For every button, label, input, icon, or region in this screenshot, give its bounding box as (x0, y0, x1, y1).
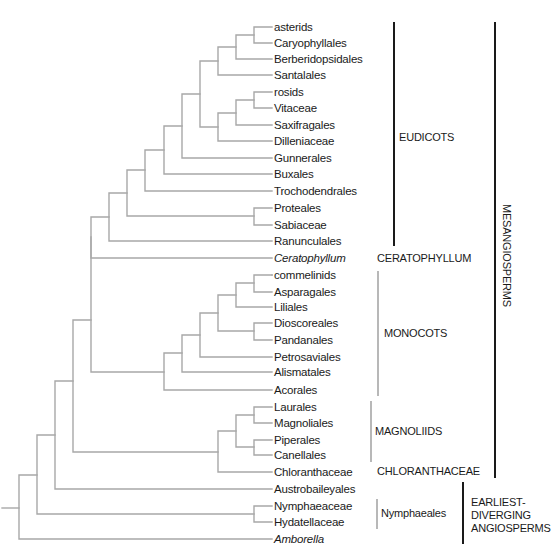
leaf-amborella: Amborella (274, 532, 324, 546)
leaf-ceratophyllum: Ceratophyllum (274, 251, 346, 265)
leaf-petrosaviales: Petrosaviales (274, 350, 340, 364)
leaf-asparagales: Asparagales (274, 285, 336, 299)
leaf-alismatales: Alismatales (274, 365, 331, 379)
nymphaeales-label: Nymphaeales (381, 507, 446, 520)
earliest-diverging-bracket (462, 482, 464, 544)
magnoliids-label: MAGNOLIIDS (375, 425, 442, 438)
magnoliids-bracket (370, 401, 372, 462)
leaf-laurales: Laurales (274, 400, 317, 414)
leaf-gunnerales: Gunnerales (274, 151, 331, 165)
earliest-diverging-label-3: ANGIOSPERMS (471, 522, 551, 535)
leaf-vitaceae: Vitaceae (274, 101, 317, 115)
leaf-magnoliales: Magnoliales (274, 416, 333, 430)
leaf-saxifragales: Saxifragales (274, 118, 335, 132)
leaf-pandanales: Pandanales (274, 333, 333, 347)
mesangiosperms-bracket (494, 22, 496, 478)
monocots-label: MONOCOTS (384, 327, 447, 340)
leaf-trochodendrales: Trochodendrales (274, 184, 357, 198)
leaf-santalales: Santalales (274, 68, 326, 82)
leaf-commelinids: commelinids (274, 268, 336, 282)
ceratophyllum-label: CERATOPHYLLUM (377, 252, 471, 265)
leaf-proteales: Proteales (274, 201, 321, 215)
leaf-buxales: Buxales (274, 167, 314, 181)
nymphaeales-bracket (376, 499, 378, 529)
earliest-diverging-label-2: DIVERGING (471, 509, 531, 522)
leaf-hydatellaceae: Hydatellaceae (274, 515, 344, 529)
leaf-austrobaileyales: Austrobaileyales (274, 482, 355, 496)
leaf-liliales: Liliales (274, 300, 308, 314)
leaf-asterids: asterids (274, 20, 313, 34)
mesangiosperms-label: MESANGIOSPERMS (501, 204, 513, 307)
leaf-berberidopsidales: Berberidopsidales (274, 52, 363, 66)
earliest-diverging-label-1: EARLIEST- (471, 496, 525, 509)
monocots-bracket (377, 271, 379, 396)
eudicots-bracket (393, 22, 395, 246)
leaf-chloranthaceae: Chloranthaceae (274, 465, 352, 479)
leaf-canellales: Canellales (274, 448, 326, 462)
leaf-caryophyllales: Caryophyllales (274, 36, 347, 50)
leaf-acorales: Acorales (274, 383, 317, 397)
leaf-dioscoreales: Dioscoreales (274, 316, 338, 330)
leaf-dilleniaceae: Dilleniaceae (274, 134, 334, 148)
leaf-nymphaeaceae: Nymphaeaceae (274, 499, 352, 513)
leaf-ranunculales: Ranunculales (274, 234, 341, 248)
leaf-rosids: rosids (274, 85, 303, 99)
chloranthaceae-label: CHLORANTHACEAE (377, 465, 480, 478)
eudicots-label: EUDICOTS (399, 131, 454, 144)
leaf-sabiaceae: Sabiaceae (274, 218, 327, 232)
leaf-piperales: Piperales (274, 433, 320, 447)
